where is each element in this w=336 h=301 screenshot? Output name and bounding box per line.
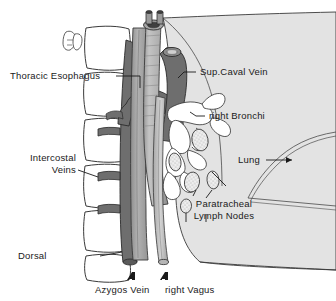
label-intercostal-veins-line2: Veins — [8, 164, 76, 176]
diagram-canvas — [0, 0, 336, 301]
rib-head-sketch — [63, 31, 82, 50]
label-thoracic-esophagus: Thoracic Esophagus — [10, 70, 100, 82]
label-dorsal: Dorsal — [18, 250, 47, 262]
label-azygos-vein: Azygos Vein — [95, 284, 149, 296]
label-paratracheal-line1: Paratracheal — [178, 198, 270, 210]
bottom-pointer-arrows — [127, 272, 168, 280]
label-lung: Lung — [238, 154, 260, 166]
anatomical-diagram: Thoracic Esophagus Intercostal Veins Dor… — [0, 0, 336, 301]
label-intercostal-veins-line1: Intercostal — [8, 152, 76, 164]
label-right-bronchi: right Bronchi — [209, 110, 265, 122]
label-paratracheal-line2: Lymph Nodes — [178, 210, 270, 222]
label-sup-caval-vein: Sup.Caval Vein — [200, 66, 268, 78]
label-right-vagus: right Vagus — [165, 284, 215, 296]
